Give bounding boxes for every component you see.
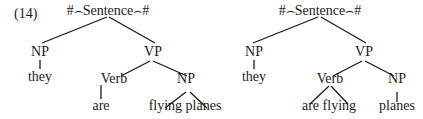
tree-1-np: NP xyxy=(31,45,49,59)
tree-2-np: NP xyxy=(245,45,263,59)
tree-2-obj-np: NP xyxy=(388,72,406,86)
tree-1-verb: Verb xyxy=(101,72,127,86)
tree-1-obj-np: NP xyxy=(177,72,195,86)
tree-2-obj-leaf: planes xyxy=(379,99,415,113)
tree-2-verb-leaf: are flying xyxy=(302,99,356,113)
tree-1-obj-leaf: flying planes xyxy=(149,99,222,113)
tree-2-root: #⌢Sentence⌢# xyxy=(279,4,362,18)
tree-1-vp: VP xyxy=(144,45,162,59)
tree-1-verb-leaf: are xyxy=(92,99,109,113)
tree-1-np-leaf: they xyxy=(28,70,52,84)
tree-2-vp: VP xyxy=(355,45,373,59)
tree-1-root: #⌢Sentence⌢# xyxy=(67,4,150,18)
tree-2-np-leaf: they xyxy=(242,70,266,84)
tree-2-verb: Verb xyxy=(317,72,343,86)
